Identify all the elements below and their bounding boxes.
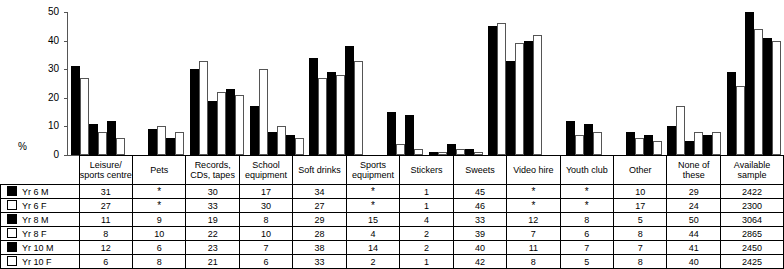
bar — [635, 138, 644, 155]
table-row: Yr 6 F27*333027*146**17242300 — [1, 199, 784, 213]
table-cell-value: 7 — [614, 241, 667, 255]
bar — [250, 106, 259, 155]
table-row: Yr 10 M12623738142401177412450 — [1, 241, 784, 255]
bar — [772, 41, 781, 155]
table-cell-available-sample: 2450 — [721, 241, 784, 255]
data-table-wrapper: Leisure/sports centrePetsRecords,CDs, ta… — [0, 155, 784, 261]
legend-label: Yr 6 F — [22, 201, 47, 211]
bar — [566, 121, 575, 155]
table-column-header: Sportsequipment — [346, 156, 399, 185]
table-cell-missing: * — [346, 185, 399, 199]
table-cell-value: 33 — [453, 213, 506, 227]
table-cell-value: 9 — [132, 213, 185, 227]
y-axis-label: % — [18, 141, 27, 152]
bar-group-bars — [548, 12, 602, 155]
table-cell-value: 8 — [614, 255, 667, 269]
bar — [396, 144, 405, 155]
table-cell-value: 2 — [346, 255, 399, 269]
bar — [199, 61, 208, 155]
bar — [166, 138, 175, 155]
bar — [506, 61, 515, 155]
table-column-header: Leisure/sports centre — [79, 156, 132, 185]
bar — [497, 23, 506, 155]
bar — [226, 89, 235, 155]
table-cell-value: 8 — [507, 255, 560, 269]
legend-swatch-male-icon — [7, 214, 17, 224]
bar — [754, 29, 763, 155]
table-cell-available-sample: 2865 — [721, 227, 784, 241]
table-row: Yr 10 F68216332142858402425 — [1, 255, 784, 269]
table-cell-value: 1 — [400, 255, 453, 269]
bar — [703, 135, 712, 155]
table-cell-available-sample: 3064 — [721, 213, 784, 227]
y-tick-label: 20 — [33, 93, 59, 103]
bar — [148, 129, 157, 155]
table-cell-missing: * — [507, 199, 560, 213]
table-cell-value: 8 — [239, 213, 292, 227]
bar — [745, 12, 754, 155]
table-column-header: Video hire — [507, 156, 560, 185]
table-cell-value: 29 — [293, 213, 346, 227]
table-cell-value: 6 — [560, 227, 613, 241]
table-cell-value: 27 — [293, 199, 346, 213]
bar-group — [68, 12, 128, 155]
table-cell-value: 10 — [614, 185, 667, 199]
legend-row-header: Yr 6 F — [1, 199, 80, 213]
table-cell-value: 6 — [239, 255, 292, 269]
table-cell-value: 45 — [453, 185, 506, 199]
bar — [685, 141, 694, 155]
bar — [515, 43, 524, 155]
bar-group — [724, 12, 784, 155]
table-cell-value: 31 — [79, 185, 132, 199]
table-cell-value: 41 — [667, 241, 721, 255]
table-column-header: Sweets — [453, 156, 506, 185]
bar — [98, 132, 107, 155]
bar — [575, 135, 584, 155]
bar-group — [545, 12, 605, 155]
bar — [107, 121, 116, 155]
header-line: sample — [721, 170, 783, 180]
header-line: Leisure/ — [80, 160, 132, 170]
legend-label: Yr 10 F — [22, 257, 52, 267]
table-column-header: Soft drinks — [293, 156, 346, 185]
legend-row-header: Yr 10 F — [1, 255, 80, 269]
y-tick-label: 50 — [33, 7, 59, 17]
bar — [235, 95, 244, 155]
bar — [116, 138, 125, 155]
table-cell-value: 1 — [400, 185, 453, 199]
bar — [354, 61, 363, 155]
header-line: Sports — [347, 160, 399, 170]
table-cell-value: 2 — [400, 227, 453, 241]
bar — [71, 66, 80, 155]
table-cell-value: 4 — [346, 227, 399, 241]
bar-group-bars — [130, 12, 184, 155]
bar — [667, 126, 676, 155]
table-row: Yr 8 F8102210284239768442865 — [1, 227, 784, 241]
bar — [277, 126, 286, 155]
bar-groups — [68, 12, 784, 155]
bar-chart: % 01020304050 — [0, 0, 784, 156]
bar — [80, 78, 89, 155]
table-cell-value: 19 — [186, 213, 239, 227]
bar — [584, 124, 593, 155]
bar — [268, 132, 277, 155]
bar — [295, 138, 304, 155]
bar-group-bars — [608, 12, 662, 155]
bar — [524, 41, 533, 155]
table-column-header: Schoolequipment — [239, 156, 292, 185]
table-cell-value: 17 — [614, 199, 667, 213]
table-cell-value: 28 — [293, 227, 346, 241]
table-cell-value: 6 — [79, 255, 132, 269]
table-cell-available-sample: 2422 — [721, 185, 784, 199]
table-cell-value: 22 — [186, 227, 239, 241]
table-cell-missing: * — [132, 185, 185, 199]
legend-row-header: Yr 6 M — [1, 185, 80, 199]
legend-swatch-female-icon — [7, 228, 17, 238]
legend-swatch-female-icon — [7, 200, 17, 210]
legend-label: Yr 8 M — [22, 215, 49, 225]
bar-group — [605, 12, 665, 155]
table-cell-value: 12 — [507, 213, 560, 227]
bar — [157, 126, 166, 155]
table-cell-value: 12 — [79, 241, 132, 255]
bar-group — [187, 12, 247, 155]
